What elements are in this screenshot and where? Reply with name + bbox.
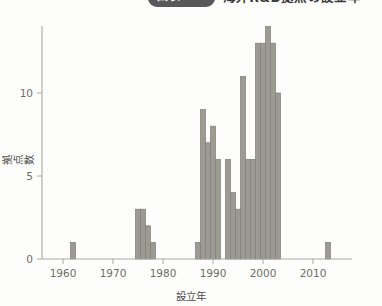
histogram-bar bbox=[136, 209, 141, 259]
histogram-bar bbox=[206, 143, 211, 259]
y-tick-label: 10 bbox=[20, 87, 33, 99]
x-tick-label: 1980 bbox=[150, 267, 177, 279]
x-axis-title: 設立年 bbox=[176, 290, 206, 302]
histogram-bar bbox=[211, 126, 216, 259]
x-tick-label: 2000 bbox=[250, 267, 277, 279]
histogram-bar bbox=[266, 27, 271, 259]
x-tick-label: 1990 bbox=[200, 267, 227, 279]
histogram-bar bbox=[256, 43, 261, 259]
x-tick-label: 2010 bbox=[300, 267, 327, 279]
histogram-svg: 0510196019701980199020002010 設立年 拠点数 bbox=[0, 0, 382, 306]
histogram-bar bbox=[216, 159, 221, 259]
histogram-bar bbox=[196, 242, 201, 259]
histogram-bar bbox=[271, 43, 276, 259]
x-tick-label: 1970 bbox=[100, 267, 127, 279]
histogram-bar bbox=[326, 242, 331, 259]
chart-page: 図表 2-3 海外R&D拠点の設立年 051019601970198019902… bbox=[0, 0, 382, 306]
histogram-bar bbox=[276, 93, 281, 259]
histogram-bar bbox=[246, 159, 251, 259]
histogram-bar bbox=[231, 193, 236, 259]
histogram-bar bbox=[201, 110, 206, 259]
histogram-bar bbox=[151, 242, 156, 259]
histogram-chart: 0510196019701980199020002010 設立年 拠点数 bbox=[0, 0, 382, 306]
histogram-bar bbox=[146, 226, 151, 259]
bars-group bbox=[71, 27, 331, 259]
y-tick-label: 0 bbox=[26, 253, 33, 265]
x-tick-label: 1960 bbox=[50, 267, 77, 279]
histogram-bar bbox=[141, 209, 146, 259]
axes-group bbox=[37, 26, 352, 264]
y-tick-label: 5 bbox=[26, 170, 33, 182]
histogram-bar bbox=[251, 159, 256, 259]
histogram-bar bbox=[226, 159, 231, 259]
y-axis-title: 拠点数 bbox=[1, 154, 35, 166]
histogram-bar bbox=[236, 209, 241, 259]
histogram-bar bbox=[261, 43, 266, 259]
histogram-bar bbox=[241, 76, 246, 259]
histogram-bar bbox=[71, 242, 76, 259]
